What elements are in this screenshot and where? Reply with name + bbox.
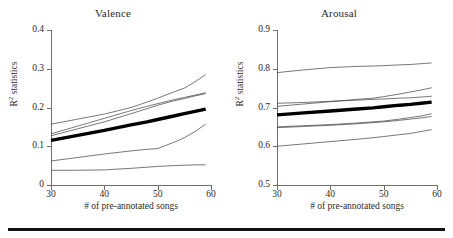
chart-panel-valence: Valence R2 statistics # of pre-annotated…: [0, 0, 226, 215]
series-line-fold-lower-3: [277, 130, 432, 147]
x-tick-label-60: 60: [198, 189, 224, 199]
figure: Valence R2 statistics # of pre-annotated…: [0, 0, 453, 238]
curves-valence: [51, 30, 211, 185]
series-line-fold-lower-1: [277, 114, 432, 127]
y-tick-label-0: 0: [18, 179, 44, 189]
bottom-rule: [8, 228, 445, 231]
x-tick-label-60: 60: [424, 189, 450, 199]
y-tick-0.6: [273, 146, 277, 147]
y-tick-label-0.3: 0.3: [18, 63, 44, 73]
y-axis-title-valence: R2 statistics: [7, 44, 19, 124]
y-tick-0.8: [273, 69, 277, 70]
plot-area-arousal: [277, 30, 437, 185]
y-tick-label-0.5: 0.5: [244, 179, 270, 189]
series-line-fold-lower-2: [51, 165, 206, 170]
series-line-fold-upper-1: [51, 75, 206, 125]
y-axis-title-superscript: 2: [7, 97, 15, 101]
x-tick-label-50: 50: [145, 189, 171, 199]
curves-arousal: [277, 30, 437, 185]
y-tick-0.1: [47, 146, 51, 147]
y-tick-label-0.7: 0.7: [244, 102, 270, 112]
y-tick-label-0.6: 0.6: [244, 140, 270, 150]
x-axis-title-valence: # of pre-annotated songs: [31, 201, 231, 211]
series-line-fold-upper-1: [277, 63, 432, 73]
y-tick-0.2: [47, 108, 51, 109]
y-tick-0.9: [273, 30, 277, 31]
y-tick-0.3: [47, 69, 51, 70]
x-tick-label-40: 40: [317, 189, 343, 199]
x-tick-label-40: 40: [91, 189, 117, 199]
y-tick-label-0.4: 0.4: [18, 24, 44, 34]
y-axis-title-arousal: R2 statistics: [233, 44, 245, 124]
plot-area-valence: [51, 30, 211, 185]
y-tick-0.7: [273, 108, 277, 109]
y-tick-label-0.9: 0.9: [244, 24, 270, 34]
panel-title-arousal: Arousal: [226, 7, 452, 19]
x-tick-label-30: 30: [38, 189, 64, 199]
x-tick-label-50: 50: [371, 189, 397, 199]
chart-panel-arousal: Arousal R2 statistics # of pre-annotated…: [226, 0, 452, 215]
y-tick-label-0.8: 0.8: [244, 63, 270, 73]
y-axis-title-superscript: 2: [233, 97, 241, 101]
y-tick-label-0.2: 0.2: [18, 102, 44, 112]
x-axis-line-arousal: [277, 185, 438, 186]
x-axis-line-valence: [51, 185, 212, 186]
x-tick-label-30: 30: [264, 189, 290, 199]
x-axis-title-arousal: # of pre-annotated songs: [257, 201, 453, 211]
y-tick-0.4: [47, 30, 51, 31]
y-tick-label-0.1: 0.1: [18, 140, 44, 150]
panel-title-valence: Valence: [0, 7, 226, 19]
series-line-mean: [51, 109, 206, 140]
